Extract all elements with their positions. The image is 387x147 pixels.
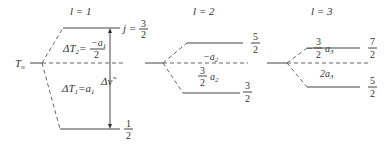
l1-lower-j-den: 2 bbox=[126, 130, 131, 141]
l3-upper-diagonal bbox=[287, 48, 307, 63]
l2-lower-j-num: 3 bbox=[245, 80, 250, 91]
l2-upper-shift: −a2 bbox=[203, 51, 219, 64]
arrow-up-icon bbox=[108, 28, 112, 33]
l3-lower-diagonal bbox=[287, 63, 307, 87]
l1-label: l = 1 bbox=[70, 5, 91, 17]
l3-upper-j-num: 7 bbox=[370, 36, 375, 47]
l2-lower-j-den: 2 bbox=[245, 93, 250, 104]
l3-upper-shift-symbol: a3 bbox=[325, 43, 334, 56]
l2-lower-shift-num: 3 bbox=[200, 65, 205, 76]
group-l3: l = 3 7 2 5 2 − 3 2 a3 2a3 bbox=[267, 5, 377, 99]
l2-lower-shift-symbol: a2 bbox=[210, 71, 219, 84]
l2-lower-shift-den: 2 bbox=[200, 77, 205, 88]
l2-upper-diagonal bbox=[163, 43, 187, 63]
l1-upper-diagonal bbox=[42, 28, 63, 63]
l1-lower-diagonal bbox=[42, 63, 60, 129]
l2-upper-j-den: 2 bbox=[253, 44, 258, 55]
arrow-down-icon bbox=[108, 124, 112, 129]
l1-upper-shift-den: 2 bbox=[94, 49, 99, 60]
l3-lower-shift: 2a3 bbox=[320, 68, 334, 81]
l3-upper-shift-num: 3 bbox=[316, 36, 321, 47]
l1-lower-j-num: 1 bbox=[126, 118, 131, 129]
l3-label: l = 3 bbox=[311, 5, 333, 17]
l3-upper-shift-den: 2 bbox=[316, 49, 321, 60]
l1-upper-j-den: 2 bbox=[141, 29, 146, 40]
l3-lower-j-num: 5 bbox=[370, 75, 375, 86]
fine-structure-diagram: l = 1 Tn Δν̃ j = 3 2 1 2 ΔT2= −a1 2 ΔT1 bbox=[0, 0, 387, 147]
group-l2: l = 2 5 2 3 2 −a2 3 2 a2 bbox=[145, 5, 260, 104]
l1-upper-j-prefix: j = bbox=[121, 22, 136, 34]
l1-lower-shift: ΔT1=a1 bbox=[61, 82, 95, 96]
interval-label: Δν̃ bbox=[100, 75, 117, 87]
group-l1: l = 1 Tn Δν̃ j = 3 2 1 2 ΔT2= −a1 2 ΔT1 bbox=[15, 5, 148, 141]
l3-upper-shift-sign: − bbox=[307, 43, 313, 54]
term-label: Tn bbox=[15, 57, 25, 71]
l2-upper-j-num: 5 bbox=[253, 31, 258, 42]
l3-upper-j-den: 2 bbox=[370, 49, 375, 60]
l1-upper-shift: ΔT2= bbox=[62, 42, 87, 56]
l2-label: l = 2 bbox=[193, 5, 215, 17]
l2-lower-diagonal bbox=[163, 63, 183, 93]
l3-lower-j-den: 2 bbox=[370, 88, 375, 99]
l1-upper-j-num: 3 bbox=[141, 18, 146, 29]
